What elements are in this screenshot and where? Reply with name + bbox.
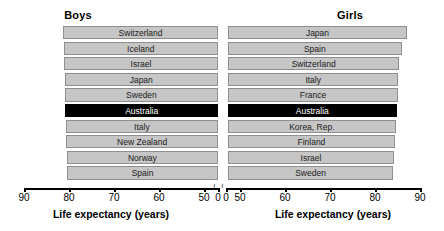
bar-label: Korea, Rep. bbox=[229, 121, 395, 134]
bar-italy: Italy bbox=[228, 73, 398, 86]
bar-spain: Spain bbox=[228, 42, 402, 55]
x-axis-title-girls: Life expectancy (years) bbox=[222, 208, 444, 220]
table-row: France bbox=[222, 88, 444, 101]
x-axis-tick-label: 70 bbox=[317, 192, 343, 203]
bar-australia: Australia bbox=[228, 104, 397, 117]
bar-israel: Israel bbox=[228, 151, 394, 164]
x-axis-girls bbox=[226, 188, 420, 190]
axis-break-icon: ≀ bbox=[221, 182, 224, 189]
table-row: Korea, Rep. bbox=[222, 120, 444, 133]
bar-korea-rep: Korea, Rep. bbox=[228, 120, 396, 133]
x-axis-tick-label: 50 bbox=[227, 192, 253, 203]
plot-area-girls: JapanSpainSwitzerlandItalyFranceAustrali… bbox=[222, 26, 444, 184]
bar-sweden: Sweden bbox=[228, 166, 393, 179]
bar-japan: Japan bbox=[228, 26, 407, 39]
bar-label: Italy bbox=[229, 74, 397, 87]
bar-label: Israel bbox=[229, 152, 393, 165]
panel-title-girls: Girls bbox=[239, 9, 444, 21]
bar-label: Australia bbox=[229, 105, 396, 118]
table-row: Italy bbox=[222, 73, 444, 86]
table-row: Spain bbox=[222, 42, 444, 55]
x-axis-tick-label: 60 bbox=[272, 192, 298, 203]
bar-label: France bbox=[229, 89, 397, 102]
bar-finland: Finland bbox=[228, 135, 395, 148]
bar-switzerland: Switzerland bbox=[228, 57, 399, 70]
bar-label: Switzerland bbox=[229, 58, 398, 71]
life-expectancy-back-to-back-bar-chart: Boys SwitzerlandIcelandIsraelJapanSweden… bbox=[0, 0, 444, 231]
table-row: Japan bbox=[222, 26, 444, 39]
axis-title-container-boys: Life expectancy (years) bbox=[0, 0, 222, 231]
x-axis-title-boys: Life expectancy (years) bbox=[0, 208, 222, 220]
bar-label: Japan bbox=[229, 27, 406, 40]
bar-label: Spain bbox=[229, 43, 401, 56]
bar-label: Finland bbox=[229, 136, 394, 149]
table-row: Finland bbox=[222, 135, 444, 148]
x-axis-tick-label: 90 bbox=[407, 192, 433, 203]
table-row: Israel bbox=[222, 151, 444, 164]
bar-label: Sweden bbox=[229, 167, 392, 180]
x-axis-tick-label: 80 bbox=[362, 192, 388, 203]
table-row: Sweden bbox=[222, 166, 444, 179]
table-row: Australia bbox=[222, 104, 444, 117]
table-row: Switzerland bbox=[222, 57, 444, 70]
bar-france: France bbox=[228, 88, 398, 101]
